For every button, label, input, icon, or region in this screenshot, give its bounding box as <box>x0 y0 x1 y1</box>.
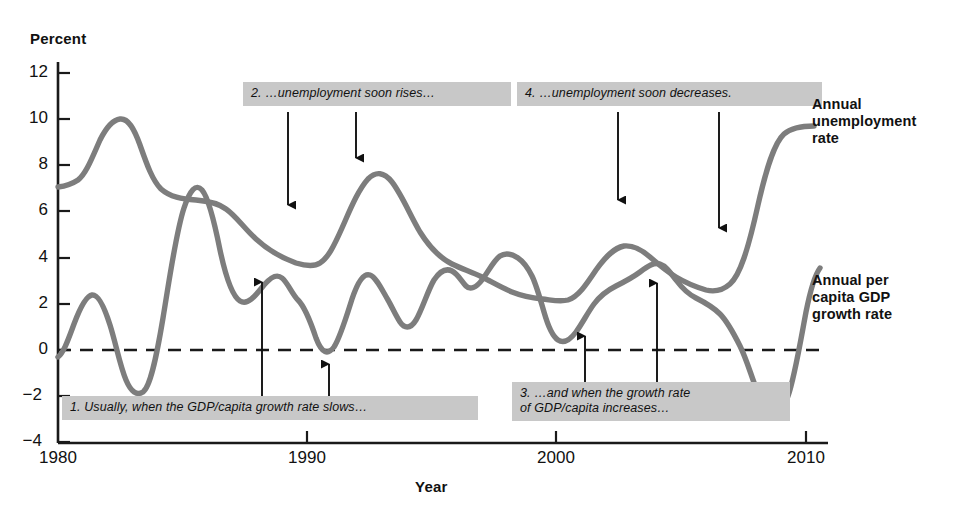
x-tick-2010: 2010 <box>771 448 841 468</box>
annotation-callout-4: 4. …unemployment soon decreases. <box>517 82 822 106</box>
y-tick-neg2: −2 <box>2 385 42 405</box>
chart-plot-area <box>0 0 956 524</box>
x-tick-1990: 1990 <box>272 448 342 468</box>
annotation-callout-1: 1. Usually, when the GDP/capita growth r… <box>62 396 478 420</box>
y-axis <box>58 62 70 443</box>
y-tick-0: 0 <box>8 339 48 359</box>
y-tick-2: 2 <box>8 293 48 313</box>
y-tick-6: 6 <box>8 200 48 220</box>
y-tick-4: 4 <box>8 247 48 267</box>
x-axis <box>58 431 828 443</box>
series-label-gdp: Annual per capita GDP growth rate <box>812 272 952 323</box>
x-tick-1980: 1980 <box>23 448 93 468</box>
annotation-callout-2: 2. …unemployment soon rises… <box>243 82 511 106</box>
series-label-unemployment: Annual unemployment rate <box>812 96 952 147</box>
y-tick-10: 10 <box>8 108 48 128</box>
x-tick-2000: 2000 <box>521 448 591 468</box>
chart-figure: Percent Year 12 10 8 6 4 2 0 −2 −4 1980 … <box>0 0 956 524</box>
annotation-callout-3: 3. …and when the growth rate of GDP/capi… <box>512 382 790 421</box>
y-tick-12: 12 <box>8 62 48 82</box>
y-tick-8: 8 <box>8 154 48 174</box>
y-axis-title: Percent <box>30 30 86 47</box>
x-axis-title: Year <box>415 478 448 495</box>
